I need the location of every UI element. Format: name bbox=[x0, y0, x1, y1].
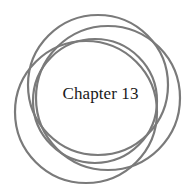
chapter-title: Chapter 13 bbox=[0, 84, 193, 104]
